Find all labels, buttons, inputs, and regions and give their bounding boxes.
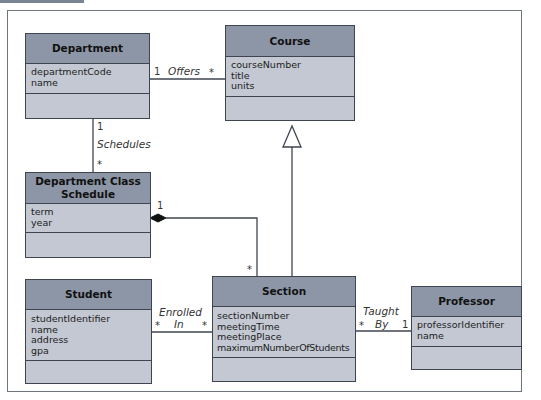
- enrolled-to-multiplicity: *: [202, 320, 207, 331]
- attribute: studentIdentifier: [31, 314, 151, 325]
- attributes: professorIdentifier name: [412, 317, 521, 347]
- attributes: courseNumber title units: [226, 57, 354, 97]
- composition-line: [166, 218, 257, 276]
- attribute: departmentCode: [31, 67, 149, 78]
- attributes: term year: [26, 204, 150, 233]
- class-professor[interactable]: Professor professorIdentifier name: [411, 286, 522, 370]
- enrolled-label-line1: Enrolled: [159, 306, 202, 318]
- class-student[interactable]: Student studentIdentifier name address g…: [25, 279, 152, 384]
- attribute: courseNumber: [231, 60, 354, 71]
- attribute: name: [31, 78, 149, 89]
- attribute: address: [31, 335, 151, 346]
- enrolled-label-line2: In: [174, 318, 184, 330]
- schedules-to-multiplicity: *: [97, 159, 102, 170]
- class-department-class-schedule[interactable]: Department Class Schedule term year: [25, 172, 151, 258]
- schedules-from-multiplicity: 1: [97, 121, 103, 132]
- class-section[interactable]: Section sectionNumber meetingTime meetin…: [212, 276, 356, 382]
- attribute: maximumNumberOfStudents: [217, 343, 355, 354]
- class-course[interactable]: Course courseNumber title units: [225, 25, 355, 121]
- attributes: departmentCode name: [26, 64, 149, 94]
- attribute: gpa: [31, 346, 151, 357]
- enrolled-from-multiplicity: *: [155, 320, 160, 331]
- attribute: professorIdentifier: [417, 320, 521, 331]
- class-department[interactable]: Department departmentCode name: [25, 33, 150, 119]
- attributes: studentIdentifier name address gpa: [26, 310, 151, 361]
- class-name: Department: [26, 34, 149, 64]
- class-name: Professor: [412, 287, 521, 317]
- taught-to-multiplicity: 1: [402, 319, 408, 330]
- class-name: Course: [226, 26, 354, 57]
- generalization-triangle-icon: [283, 126, 301, 147]
- offers-label: Offers: [168, 65, 200, 77]
- class-name: Department Class Schedule: [26, 173, 150, 204]
- attribute: meetingPlace: [217, 332, 355, 343]
- taught-label-line1: Taught: [363, 305, 399, 317]
- attribute: name: [417, 331, 521, 342]
- schedules-label: Schedules: [97, 138, 151, 150]
- attributes: sectionNumber meetingTime meetingPlace m…: [213, 307, 355, 358]
- class-name: Section: [213, 277, 355, 307]
- composition-to-multiplicity: *: [247, 264, 252, 275]
- taught-label-line2: By: [375, 318, 388, 330]
- attribute: term: [31, 207, 150, 218]
- offers-to-multiplicity: *: [209, 67, 214, 78]
- taught-from-multiplicity: *: [359, 320, 364, 331]
- attribute: units: [231, 81, 354, 92]
- attribute: year: [31, 218, 150, 229]
- attribute: sectionNumber: [217, 311, 355, 322]
- offers-from-multiplicity: 1: [154, 66, 160, 77]
- composition-diamond-icon: [150, 214, 166, 222]
- composition-from-multiplicity: 1: [157, 200, 163, 211]
- class-name: Student: [26, 280, 151, 310]
